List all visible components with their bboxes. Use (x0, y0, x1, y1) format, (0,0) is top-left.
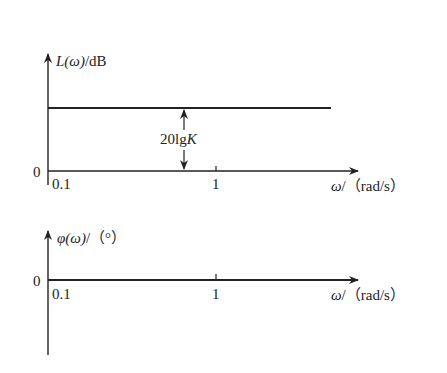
magnitude-tick-label-0.1: 0.1 (52, 176, 71, 192)
phase-tick-label-0.1: 0.1 (52, 286, 71, 302)
magnitude-tick-label-1: 1 (212, 176, 220, 192)
magnitude-y-label: L(ω)/dB (55, 53, 107, 70)
gain-annotation: 20lgK (160, 131, 198, 147)
magnitude-plot: 20lgK L(ω)/dB 0 0.1 1 ω/（rad/s） (33, 53, 405, 194)
magnitude-x-label: ω/（rad/s） (331, 178, 405, 194)
phase-x-label: ω/（rad/s） (331, 287, 405, 303)
phase-plot: φ(ω)/（°） 0 0.1 1 ω/（rad/s） (33, 230, 405, 355)
phase-zero-label: 0 (33, 273, 41, 289)
phase-tick-label-1: 1 (212, 286, 220, 302)
bode-diagram-proportional: 20lgK L(ω)/dB 0 0.1 1 ω/（rad/s） φ(ω)/（°）… (0, 0, 447, 373)
phase-y-label: φ(ω)/（°） (57, 230, 126, 247)
magnitude-zero-label: 0 (33, 164, 41, 180)
